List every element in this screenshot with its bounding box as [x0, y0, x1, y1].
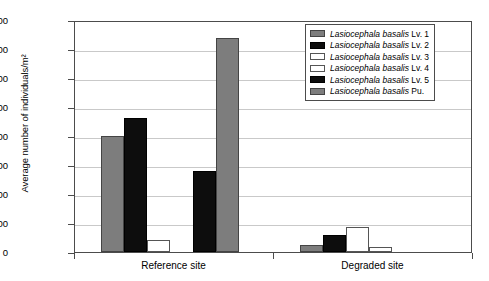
legend-item-label: Lasiocephala basalis Lv. 5: [330, 76, 429, 85]
y-tick-label: 1000: [0, 103, 8, 113]
y-tick-label: 1400: [0, 45, 8, 55]
legend-swatch-icon: [310, 30, 325, 37]
bar-chart: Average number of individuals/m² 0200400…: [0, 0, 489, 281]
x-tick-mark: [273, 253, 274, 259]
legend-swatch-icon: [310, 53, 325, 60]
legend-swatch-icon: [310, 88, 325, 95]
x-tick-mark: [74, 253, 75, 259]
y-tick-label: 800: [0, 132, 8, 142]
y-axis-title: Average number of individuals/m²: [19, 24, 30, 224]
bar: [300, 245, 323, 252]
legend-swatch-icon: [310, 76, 325, 83]
bar: [346, 227, 369, 252]
legend-item[interactable]: Lasiocephala basalis Pu.: [310, 86, 429, 98]
legend-item-label: Lasiocephala basalis Lv. 2: [330, 41, 429, 50]
bar: [124, 118, 147, 252]
legend-swatch-icon: [310, 42, 325, 49]
x-tick-label: Reference site: [74, 260, 273, 271]
bar: [216, 38, 239, 252]
y-tick-label: 400: [0, 190, 8, 200]
chart-legend: Lasiocephala basalis Lv. 1Lasiocephala b…: [305, 24, 435, 101]
bar: [101, 136, 124, 252]
legend-item[interactable]: Lasiocephala basalis Lv. 4: [310, 63, 429, 75]
legend-item-label: Lasiocephala basalis Lv. 3: [330, 53, 429, 62]
legend-item-label: Lasiocephala basalis Pu.: [330, 87, 424, 96]
bar: [147, 240, 170, 252]
bar: [193, 171, 216, 252]
legend-item-label: Lasiocephala basalis Lv. 4: [330, 64, 429, 73]
legend-item[interactable]: Lasiocephala basalis Lv. 5: [310, 74, 429, 86]
legend-swatch-icon: [310, 65, 325, 72]
legend-item[interactable]: Lasiocephala basalis Lv. 1: [310, 28, 429, 40]
legend-item-label: Lasiocephala basalis Lv. 1: [330, 30, 429, 39]
x-tick-mark: [472, 253, 473, 259]
y-tick-label: 1200: [0, 74, 8, 84]
y-tick-label: 200: [0, 219, 8, 229]
bar: [323, 235, 346, 252]
y-tick-label: 1600: [0, 16, 8, 26]
x-tick-label: Degraded site: [273, 260, 472, 271]
y-tick-label: 0: [0, 248, 8, 258]
bar: [369, 247, 392, 252]
legend-item[interactable]: Lasiocephala basalis Lv. 3: [310, 51, 429, 63]
y-tick-label: 600: [0, 161, 8, 171]
legend-item[interactable]: Lasiocephala basalis Lv. 2: [310, 40, 429, 52]
